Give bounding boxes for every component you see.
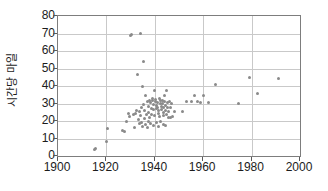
data-point [130,33,133,36]
y-tick-mark [53,33,57,34]
gridline-horizontal [58,86,300,87]
data-point [169,106,172,109]
y-tick-mark [53,50,57,51]
data-point [148,116,151,119]
data-point [106,127,109,130]
y-tick-mark [53,85,57,86]
x-tick-label: 1920 [80,160,130,174]
data-point [94,147,97,150]
data-point [237,102,240,105]
data-point [164,124,167,127]
data-point [170,102,173,105]
gridline-vertical [155,16,156,156]
x-tick-mark [57,157,58,161]
data-point [146,126,149,129]
x-tick-mark [299,157,300,161]
data-point [193,94,196,97]
x-tick-label: 1960 [177,160,227,174]
gridline-horizontal [58,139,300,140]
y-tick-mark [53,155,57,156]
data-point [136,73,139,76]
data-point [139,32,142,35]
x-tick-mark [202,157,203,161]
data-point [143,117,146,120]
data-point [123,130,126,133]
x-tick-mark [105,157,106,161]
x-tick-label: 1900 [32,160,82,174]
data-point [140,121,143,124]
data-point [207,101,210,104]
data-point [214,83,217,86]
x-tick-label: 1940 [129,160,179,174]
data-point [158,115,161,118]
data-point [173,110,176,113]
y-tick-label: 60 [21,45,55,55]
data-point [181,110,184,113]
y-tick-mark [53,120,57,121]
y-tick-mark [53,103,57,104]
data-point [277,77,280,80]
y-tick-label: 40 [21,80,55,90]
data-point [155,121,158,124]
y-axis-title-text: 시간당 마일 [3,53,19,106]
y-tick-label: 50 [21,63,55,73]
data-point [167,110,170,113]
data-point [165,89,168,92]
data-point [142,103,145,106]
y-tick-label: 80 [21,10,55,20]
data-point [141,85,144,88]
y-axis-tick-labels: 01020304050607080 [19,15,55,157]
data-point [256,92,259,95]
gridline-horizontal [58,51,300,52]
data-point [138,110,141,113]
data-point [171,115,174,118]
scatter-chart: 시간당 마일 01020304050607080 190019201940196… [0,0,328,191]
plot-area [57,15,301,157]
data-point [143,109,146,112]
data-point [139,114,142,117]
data-point [163,94,166,97]
gridline-horizontal [58,121,300,122]
gridline-vertical [203,16,204,156]
gridline-horizontal [58,104,300,105]
data-point [134,112,137,115]
x-tick-label: 2000 [274,160,324,174]
gridline-vertical [106,16,107,156]
y-tick-label: 0 [21,150,55,160]
data-point [137,118,140,121]
y-tick-label: 70 [21,28,55,38]
data-point [152,124,155,127]
data-point [190,100,193,103]
data-point [196,100,199,103]
y-tick-mark [53,15,57,16]
data-point [142,60,145,63]
gridline-horizontal [58,69,300,70]
gridline-vertical [252,16,253,156]
x-tick-label: 1980 [226,160,276,174]
data-point [128,115,131,118]
data-point [144,94,147,97]
data-point [105,140,108,143]
data-point [153,89,156,92]
y-tick-label: 30 [21,98,55,108]
y-tick-mark [53,68,57,69]
gridline-horizontal [58,34,300,35]
x-axis-tick-labels: 190019201940196019802000 [57,160,301,176]
data-point [248,76,251,79]
y-tick-mark [53,138,57,139]
x-tick-mark [154,157,155,161]
data-point [159,120,162,123]
data-point [157,125,160,128]
data-point [202,94,205,97]
data-point [133,126,136,129]
y-tick-label: 10 [21,133,55,143]
x-tick-mark [251,157,252,161]
y-tick-label: 20 [21,115,55,125]
